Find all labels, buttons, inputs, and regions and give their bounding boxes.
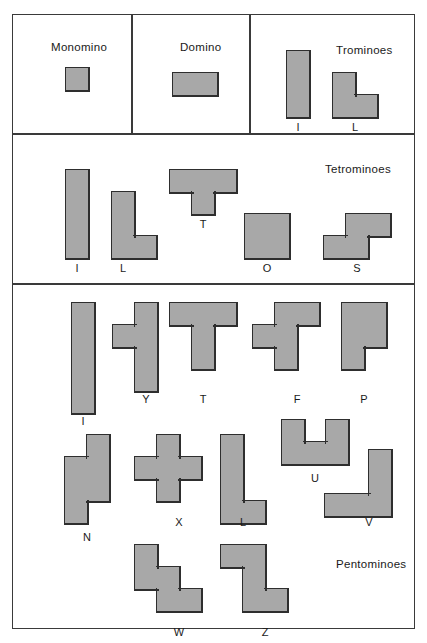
polyomino-outline [134, 456, 136, 481]
polyomino-outline [309, 94, 311, 119]
polyomino-cell [243, 545, 265, 567]
polyomino-cell [135, 369, 157, 391]
polyomino-cell [243, 589, 265, 611]
polyomino-cell [245, 214, 267, 236]
section-title-trominoes: Trominoes [336, 44, 393, 56]
polyomino-outline [325, 464, 350, 466]
polyomino-outline [386, 324, 388, 349]
polyomino-outline [156, 501, 181, 503]
polyomino-cell [66, 68, 88, 90]
polyomino-cell [346, 214, 368, 236]
polyomino-outline [64, 523, 89, 525]
polyomino-cell [214, 170, 236, 192]
polyomino-outline [65, 90, 90, 92]
polyomino-cell [364, 325, 386, 347]
polyomino-outline [191, 214, 216, 216]
polyomino-cell [221, 457, 243, 479]
polyomino-outline [341, 346, 343, 371]
polyomino-outline [332, 94, 334, 119]
polyomino-label-tetrominoes-S: S [346, 262, 368, 274]
section-divider-vertical-1 [249, 15, 251, 133]
polyomino-outline [179, 478, 181, 503]
polyomino-cell [157, 479, 179, 501]
polyomino-outline [88, 235, 90, 260]
polyomino-cell [135, 325, 157, 347]
polyomino-cell [342, 325, 364, 347]
polyomino-outline [297, 346, 299, 371]
polyomino-label-tetrominoes-O: O [256, 262, 278, 274]
polyomino-outline [191, 369, 216, 371]
polyomino-outline [242, 500, 267, 502]
polyomino-cell [192, 170, 214, 192]
polyomino-cell [157, 435, 179, 457]
polyomino-outline [325, 419, 350, 421]
polyomino-label-trominoes-I: I [287, 121, 309, 133]
polyomino-outline [178, 479, 203, 481]
polyomino-cell [135, 303, 157, 325]
polyomino-outline [213, 302, 238, 304]
polyomino-cell [267, 214, 289, 236]
polyomino-outline [281, 419, 306, 421]
polyomino-outline [236, 302, 238, 327]
polyomino-outline [194, 72, 219, 74]
polyomino-cell [304, 442, 326, 464]
polyomino-outline [286, 50, 311, 52]
polyomino-outline [265, 500, 267, 525]
polyomino-outline [178, 588, 203, 590]
polyomino-outline [134, 456, 159, 458]
polyomino-cell [287, 73, 309, 95]
polyomino-outline [252, 324, 277, 326]
polyomino-outline [178, 611, 203, 613]
section-divider-horizontal-0 [13, 133, 414, 135]
polyomino-cell [112, 214, 134, 236]
polyomino-outline [86, 501, 111, 503]
polyomino-label-pentominoes-F: F [286, 393, 308, 405]
polyomino-cell [369, 450, 391, 472]
polyomino-outline [178, 456, 203, 458]
polyomino-cell [342, 347, 364, 369]
polyomino-outline [65, 258, 90, 260]
polyomino-outline [274, 369, 299, 371]
polyomino-cell [275, 325, 297, 347]
polyomino-cell [157, 589, 179, 611]
polyomino-cell [267, 236, 289, 258]
polyomino-cell [72, 303, 94, 325]
polyomino-label-trominoes-L: L [344, 121, 366, 133]
polyomino-cell [243, 567, 265, 589]
polyomino-label-pentominoes-X: X [168, 516, 190, 528]
polyomino-cell [65, 457, 87, 479]
polyomino-cell [65, 501, 87, 523]
polyomino-outline [390, 213, 392, 238]
polyomino-cell [333, 73, 355, 95]
polyomino-outline [348, 441, 350, 466]
polyomino-label-pentominoes-P: P [353, 393, 375, 405]
polyomino-outline [323, 235, 325, 260]
polyomino-outline [111, 191, 136, 193]
polyomino-cell [369, 494, 391, 516]
polyomino-cell [157, 567, 179, 589]
polyomino-cell [170, 303, 192, 325]
polyomino-outline [213, 192, 238, 194]
polyomino-label-pentominoes-I: I [72, 415, 94, 427]
polyomino-cell [66, 170, 88, 192]
polyomino-outline [156, 235, 158, 260]
polyomino-cell [195, 73, 217, 95]
polyomino-outline [86, 434, 111, 436]
polyomino-outline [65, 67, 67, 92]
polyomino-outline [281, 441, 283, 466]
polyomino-outline [213, 169, 238, 171]
polyomino-outline [220, 544, 222, 569]
polyomino-outline [88, 67, 90, 92]
polyomino-outline [65, 169, 90, 171]
polyomino-outline [156, 588, 158, 613]
polyomino-outline [134, 544, 159, 546]
section-title-domino: Domino [180, 41, 221, 53]
polyomino-cell [87, 479, 109, 501]
polyomino-cell [113, 325, 135, 347]
polyomino-outline [324, 493, 326, 518]
polyomino-cell [135, 347, 157, 369]
polyomino-outline [345, 258, 370, 260]
polyomino-cell [87, 457, 109, 479]
polyomino-outline [367, 213, 392, 215]
polyomino-label-pentominoes-Y: Y [135, 393, 157, 405]
